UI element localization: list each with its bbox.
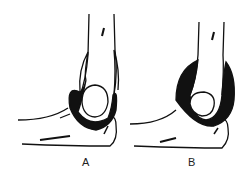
elbow-diagram (0, 0, 249, 179)
panel-b-drawing (130, 22, 234, 148)
panel-label-b: B (188, 156, 195, 168)
panel-label-a: A (82, 156, 89, 168)
panel-a-drawing (18, 14, 119, 146)
